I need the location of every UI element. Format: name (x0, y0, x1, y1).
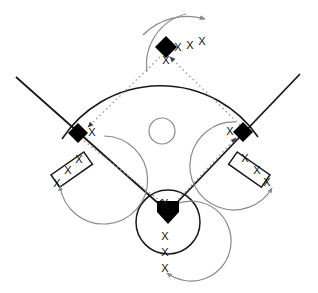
player-marker-second-base: X (162, 54, 170, 66)
player-marker-third-base: X (88, 126, 96, 138)
player-marker-home-plate: X (161, 230, 169, 242)
player-marker-first-base: X (241, 152, 249, 164)
player-marker-third-base: X (53, 177, 61, 189)
player-marker-first-base: X (263, 176, 271, 188)
player-marker-second-base: X (174, 41, 182, 53)
player-marker-home-plate: X (161, 262, 169, 274)
player-marker-home-plate: X (161, 246, 169, 258)
player-marker-third-base: X (64, 164, 72, 176)
player-marker-home-plate: X (161, 197, 169, 209)
player-marker-second-base: X (198, 35, 206, 47)
player-marker-third-base: X (75, 153, 83, 165)
player-marker-first-base: X (226, 125, 234, 137)
baseball-field-diagram: XXXXXXXXXXXXXXXX (0, 0, 318, 293)
player-marker-first-base: X (253, 164, 261, 176)
player-marker-second-base: X (186, 39, 194, 51)
